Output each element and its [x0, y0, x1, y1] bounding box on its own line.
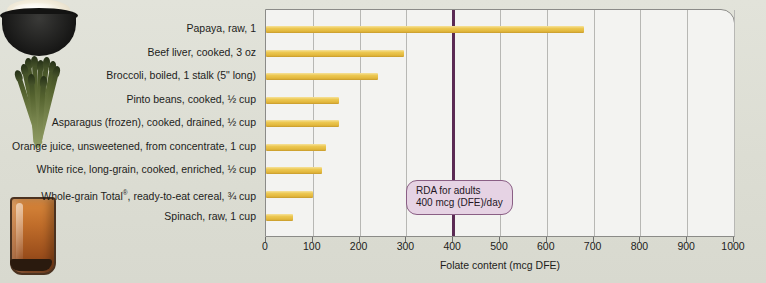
bar-row — [266, 137, 734, 159]
x-axis-tick-labels: 01002003004005006007008009001000 — [0, 240, 766, 256]
category-label: Asparagus (frozen), cooked, drained, ½ c… — [52, 116, 256, 128]
folate-content-figure: Papaya, raw, 1Beef liver, cooked, 3 ozBr… — [0, 0, 766, 283]
category-label: White rice, long-grain, cooked, enriched… — [37, 163, 256, 175]
rda-line-2: 400 mcg (DFE)/day — [416, 197, 503, 209]
category-label: Orange juice, unsweetened, from concentr… — [12, 140, 256, 152]
bar — [266, 26, 584, 33]
bar-row — [266, 160, 734, 182]
tick-label-300: 300 — [397, 240, 415, 252]
tick-label-400: 400 — [443, 240, 461, 252]
tick-label-0: 0 — [262, 240, 268, 252]
tick-label-1000: 1000 — [721, 240, 744, 252]
bar — [266, 120, 339, 127]
tick-label-700: 700 — [584, 240, 602, 252]
category-label: Papaya, raw, 1 — [187, 22, 256, 34]
rda-line-1: RDA for adults — [416, 185, 503, 197]
x-axis-title: Folate content (mcg DFE) — [265, 259, 735, 271]
category-label: Spinach, raw, 1 cup — [164, 210, 256, 222]
category-axis-labels: Papaya, raw, 1Beef liver, cooked, 3 ozBr… — [0, 9, 262, 237]
tick-label-800: 800 — [631, 240, 649, 252]
bar — [266, 50, 404, 57]
category-label: Whole-grain Total®, ready-to-eat cereal,… — [41, 187, 256, 202]
bar — [266, 73, 378, 80]
bar — [266, 191, 313, 198]
bar-row — [266, 66, 734, 88]
tick-label-500: 500 — [490, 240, 508, 252]
bar — [266, 167, 322, 174]
tick-label-900: 900 — [677, 240, 695, 252]
bar — [266, 97, 339, 104]
bar-row — [266, 90, 734, 112]
category-label: Pinto beans, cooked, ½ cup — [126, 93, 256, 105]
category-label: Beef liver, cooked, 3 oz — [147, 46, 256, 58]
bar-row — [266, 113, 734, 135]
glass-base — [10, 259, 52, 271]
bar — [266, 144, 326, 151]
category-label: Broccoli, boiled, 1 stalk (5" long) — [106, 69, 256, 81]
tick-label-100: 100 — [303, 240, 321, 252]
tick-label-200: 200 — [350, 240, 368, 252]
bar — [266, 214, 293, 221]
rda-annotation-box: RDA for adults 400 mcg (DFE)/day — [406, 180, 513, 215]
bar-row — [266, 19, 734, 41]
tick-label-600: 600 — [537, 240, 555, 252]
gridline-1000 — [734, 10, 735, 236]
bar-row — [266, 43, 734, 65]
